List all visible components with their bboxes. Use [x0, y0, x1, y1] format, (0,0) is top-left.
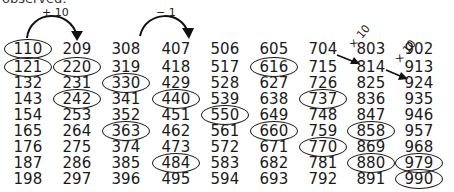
number: 825 [348, 75, 394, 91]
number: 704 [300, 41, 346, 57]
number: 693 [251, 171, 297, 187]
circled-number: 550 [202, 107, 248, 123]
circled-number: 484 [153, 155, 199, 171]
number: 561 [202, 123, 248, 139]
number: 682 [251, 155, 297, 171]
number: 297 [54, 171, 100, 187]
number: 418 [153, 59, 199, 75]
number: 803 [348, 41, 394, 57]
number: 264 [54, 123, 100, 139]
circled-number: 220 [54, 59, 100, 75]
circled-number: 330 [103, 75, 149, 91]
number: 605 [251, 41, 297, 57]
number: 935 [396, 91, 442, 107]
number: 209 [54, 41, 100, 57]
circled-number: 770 [300, 139, 346, 155]
number: 946 [396, 107, 442, 123]
circled-number: 616 [251, 59, 297, 75]
circled-number: 242 [54, 91, 100, 107]
number: 572 [202, 139, 248, 155]
number: 187 [5, 155, 51, 171]
number: 671 [251, 139, 297, 155]
number: 374 [103, 139, 149, 155]
number: 891 [348, 171, 394, 187]
number: 286 [54, 155, 100, 171]
circled-number: 440 [153, 91, 199, 107]
circled-number: 660 [251, 123, 297, 139]
number: 957 [396, 123, 442, 139]
circled-number: 990 [396, 171, 442, 187]
circled-number: 363 [103, 123, 149, 139]
circled-number: 110 [5, 41, 51, 57]
number: 583 [202, 155, 248, 171]
number: 924 [396, 75, 442, 91]
circled-number: 858 [348, 123, 394, 139]
number: 198 [5, 171, 51, 187]
number: 407 [153, 41, 199, 57]
number: 902 [396, 41, 442, 57]
number: 165 [5, 123, 51, 139]
circled-number: 737 [300, 91, 346, 107]
number: 913 [396, 59, 442, 75]
number: 627 [251, 75, 297, 91]
number: 781 [300, 155, 346, 171]
number-grid: 1101211321431541651761871982092202312422… [0, 0, 454, 192]
number: 132 [5, 75, 51, 91]
number: 176 [5, 139, 51, 155]
number: 836 [348, 91, 394, 107]
number: 451 [153, 107, 199, 123]
number: 341 [103, 91, 149, 107]
number: 638 [251, 91, 297, 107]
number: 154 [5, 107, 51, 123]
number: 143 [5, 91, 51, 107]
number: 528 [202, 75, 248, 91]
number: 792 [300, 171, 346, 187]
number: 748 [300, 107, 346, 123]
number: 715 [300, 59, 346, 75]
number: 814 [348, 59, 394, 75]
number: 462 [153, 123, 199, 139]
circled-number: 880 [348, 155, 394, 171]
number: 253 [54, 107, 100, 123]
number: 385 [103, 155, 149, 171]
circled-number: 121 [5, 59, 51, 75]
number: 308 [103, 41, 149, 57]
number: 495 [153, 171, 199, 187]
number: 275 [54, 139, 100, 155]
number: 506 [202, 41, 248, 57]
number: 594 [202, 171, 248, 187]
number: 396 [103, 171, 149, 187]
number: 517 [202, 59, 248, 75]
